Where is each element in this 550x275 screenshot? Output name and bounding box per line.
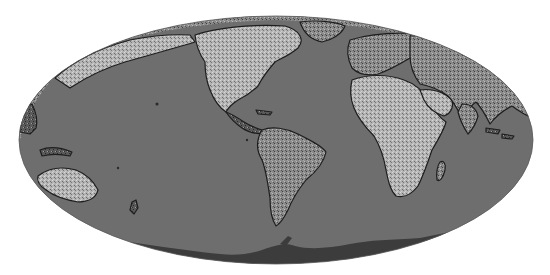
region-pacific-island <box>117 167 119 169</box>
world-map-svg <box>0 0 550 275</box>
region-atlantic-island <box>246 139 248 141</box>
world-map <box>0 0 550 275</box>
region-pacific-island <box>156 103 159 106</box>
